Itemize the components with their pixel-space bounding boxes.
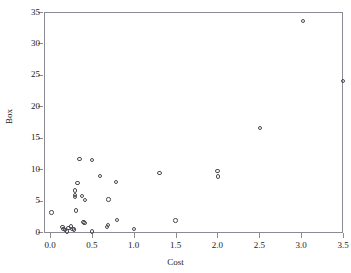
scatter-point (75, 181, 79, 185)
scatter-point (301, 19, 305, 23)
x-axis-tick-label: 0.5 (77, 241, 107, 250)
x-axis-tick-label: 3.5 (328, 241, 351, 250)
scatter-point (82, 221, 86, 225)
x-axis-tick (134, 233, 135, 238)
x-axis-tick (217, 233, 218, 238)
scatter-point (115, 218, 119, 222)
x-axis-tick (92, 233, 93, 238)
scatter-point (90, 158, 94, 162)
scatter-point (106, 197, 110, 201)
x-axis-tick (259, 233, 260, 238)
scatter-point (83, 198, 87, 202)
scatter-point (258, 126, 262, 130)
scatter-point (216, 174, 220, 178)
x-axis-tick (176, 233, 177, 238)
y-axis-tick-label: 5 (14, 196, 40, 205)
y-axis-tick-label: 25 (14, 70, 40, 79)
scatter-point (73, 188, 77, 192)
scatter-point (77, 157, 81, 161)
x-axis-tick (301, 233, 302, 238)
y-axis-tick-label: 30 (14, 39, 40, 48)
x-axis-tick (343, 233, 344, 238)
x-axis-tick-label: 2.0 (202, 241, 232, 250)
scatter-point (74, 208, 78, 212)
x-axis-tick-label: 2.5 (244, 241, 274, 250)
clipped-header-text (0, 0, 351, 7)
scatter-point (114, 180, 118, 184)
y-axis-tick-label: 35 (14, 8, 40, 17)
scatter-point (90, 229, 94, 233)
scatter-point (215, 169, 219, 173)
plot-area (44, 12, 343, 233)
scatter-chart: Box 05101520253035 0.00.51.01.52.02.53.0… (0, 0, 351, 273)
y-axis-tick-label: 20 (14, 102, 40, 111)
scatter-point (106, 223, 110, 227)
y-axis-title: Box (5, 97, 14, 137)
scatter-point (72, 227, 76, 231)
x-axis-tick-label: 0.0 (35, 241, 65, 250)
x-axis-tick-label: 1.5 (161, 241, 191, 250)
x-axis-tick-label: 1.0 (119, 241, 149, 250)
x-axis-tick (50, 233, 51, 238)
x-axis-title: Cost (0, 258, 351, 267)
scatter-point (49, 210, 53, 214)
y-axis-tick-label: 10 (14, 165, 40, 174)
scatter-point (173, 218, 177, 222)
x-axis-tick-label: 3.0 (286, 241, 316, 250)
y-axis-tick-label: 0 (14, 228, 40, 237)
scatter-point (157, 171, 161, 175)
scatter-point (132, 227, 136, 231)
y-axis-tick-label: 15 (14, 133, 40, 142)
scatter-point (341, 79, 345, 83)
scatter-point (98, 174, 102, 178)
